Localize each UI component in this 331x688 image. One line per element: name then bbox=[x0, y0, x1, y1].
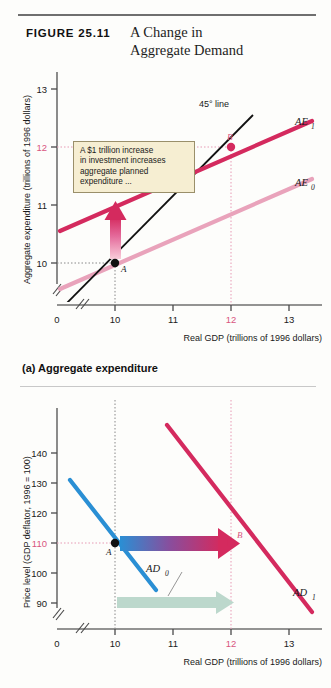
panel-b-xtick-10: 10 bbox=[110, 638, 121, 649]
panel-b-xtick-0: 0 bbox=[54, 638, 59, 649]
curve-ad0 bbox=[70, 480, 156, 590]
curve-label-45-degree-line: 45° line bbox=[199, 99, 229, 109]
curve-label-ae0-sub: 0 bbox=[311, 183, 315, 192]
figure-title-line-1: A Change in bbox=[130, 23, 243, 41]
callout-1-line-1: A $1 trillion increase bbox=[80, 146, 189, 156]
curve-label-ad1-sub: 1 bbox=[312, 593, 316, 602]
callout-1-line-2: in investment increases bbox=[80, 156, 189, 166]
panel-b-guides bbox=[57, 400, 231, 629]
panel-b-ytick-100: 100 bbox=[31, 568, 47, 579]
panel-b-ytick-120: 120 bbox=[31, 508, 47, 519]
point-b-marker bbox=[227, 143, 235, 151]
panel-a-ytick-10: 10 bbox=[36, 258, 47, 269]
point-b-label: B bbox=[227, 132, 233, 142]
panel-a-x-axis-title: Real GDP (trillions of 1996 dollars) bbox=[184, 333, 322, 343]
panel-b-xtick-12: 12 bbox=[226, 638, 237, 649]
panel-a-x-ticks: 0 10 11 12 13 bbox=[54, 305, 294, 325]
curve-label-ad0-sub: 0 bbox=[165, 569, 169, 578]
panel-b-xtick-13: 13 bbox=[284, 638, 295, 649]
panel-a-xtick-0: 0 bbox=[54, 314, 59, 325]
header-divider-rule bbox=[18, 14, 316, 16]
panel-b-ytick-140: 140 bbox=[31, 448, 47, 459]
callout-1-line-4: expenditure ... bbox=[80, 177, 189, 187]
point-a-marker-b bbox=[111, 539, 119, 547]
curve-label-ad1-text: AD bbox=[292, 587, 307, 598]
panel-b-y-axis-title: Price level (GDP deflator, 1996 = 100) bbox=[22, 456, 32, 608]
panel-divider-rule bbox=[20, 386, 316, 387]
figure-header: FIGURE 25.11 A Change in Aggregate Deman… bbox=[18, 22, 318, 62]
point-b-label-b: B bbox=[237, 530, 243, 540]
curve-label-ae1-text: AE bbox=[294, 116, 308, 127]
chart-panel-aggregate-expenditure: 13 12 11 10 0 10 11 12 13 bbox=[0, 62, 331, 362]
panel-a-xtick-13: 13 bbox=[284, 314, 295, 325]
curve-label-ad0: AD 0 bbox=[145, 563, 169, 578]
point-a-label: A bbox=[120, 264, 127, 274]
panel-b-ytick-130: 130 bbox=[31, 478, 47, 489]
point-a-marker bbox=[111, 259, 119, 267]
shift-arrow-right bbox=[120, 528, 240, 559]
panel-b-x-axis-title: Real GDP (trillions of 1996 dollars) bbox=[184, 657, 322, 667]
aggregate-demand-svg: 140 130 120 110 100 90 0 10 11 12 13 bbox=[0, 400, 331, 688]
panel-b-ytick-110: 110 bbox=[32, 538, 47, 549]
callout-1-line-3: aggregate planned bbox=[80, 167, 189, 177]
point-a-label-b: A bbox=[105, 547, 112, 557]
callout-2-leader-line bbox=[168, 572, 182, 596]
figure-number: FIGURE 25.11 bbox=[26, 27, 110, 39]
figure-title: A Change in Aggregate Demand bbox=[130, 23, 243, 59]
panel-a-xtick-11: 11 bbox=[168, 314, 178, 325]
multiplier-span-arrow bbox=[117, 591, 234, 614]
panel-a-y-ticks: 13 12 11 10 bbox=[36, 84, 57, 269]
curve-ad1 bbox=[167, 425, 312, 612]
aggregate-expenditure-svg: 13 12 11 10 0 10 11 12 13 bbox=[0, 62, 331, 362]
curve-label-ad0-text: AD bbox=[145, 563, 160, 574]
panel-b-xtick-11: 11 bbox=[168, 638, 178, 649]
chart-panel-aggregate-demand: 140 130 120 110 100 90 0 10 11 12 13 bbox=[0, 400, 331, 688]
panel-a-xtick-10: 10 bbox=[110, 314, 121, 325]
panel-b-x-ticks: 0 10 11 12 13 bbox=[54, 629, 294, 649]
panel-a-ytick-13: 13 bbox=[36, 84, 47, 95]
panel-a-y-axis-title: Aggregate expenditure (trillions of 1996… bbox=[22, 95, 32, 284]
callout-investment-increase: A $1 trillion increase in investment inc… bbox=[73, 141, 195, 193]
panel-a-caption: (a) Aggregate expenditure bbox=[22, 362, 158, 374]
point-b-marker-b bbox=[227, 539, 235, 547]
panel-a-ytick-12: 12 bbox=[36, 142, 47, 153]
figure-title-line-2: Aggregate Demand bbox=[130, 41, 243, 59]
curve-label-ae0-text: AE bbox=[294, 177, 308, 188]
curve-label-ae1-sub: 1 bbox=[311, 122, 315, 131]
panel-b-ytick-90: 90 bbox=[36, 598, 47, 609]
panel-a-xtick-12: 12 bbox=[226, 314, 237, 325]
panel-a-ytick-11: 11 bbox=[37, 200, 47, 211]
panel-b-y-ticks: 140 130 120 110 100 90 bbox=[31, 448, 57, 609]
